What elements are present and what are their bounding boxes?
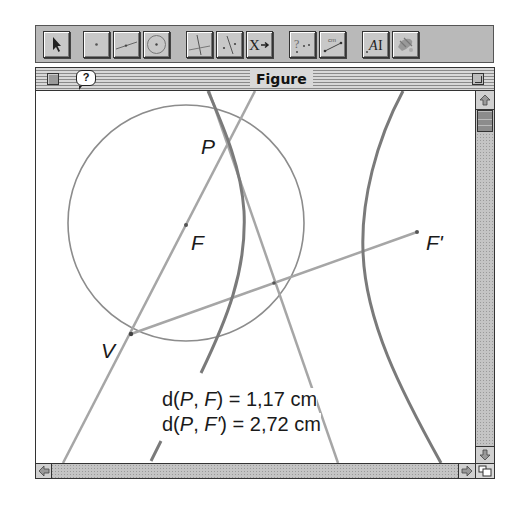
help-balloon-icon[interactable]: ? xyxy=(76,70,96,86)
svg-text:X: X xyxy=(249,37,260,53)
point-icon xyxy=(85,33,108,56)
measurement-pf-prime[interactable]: d(P, F') = 2,72 cm xyxy=(162,413,321,436)
vertical-scroll-thumb[interactable] xyxy=(477,110,493,132)
label-v: V xyxy=(101,339,115,363)
point-tool-button[interactable] xyxy=(83,31,110,58)
attributes-tool-button[interactable] xyxy=(392,31,419,58)
measure-tool-button[interactable]: cm xyxy=(319,31,346,58)
point-f-prime[interactable] xyxy=(415,230,419,234)
svg-text:A: A xyxy=(368,38,378,53)
reflection-icon xyxy=(218,33,241,56)
scroll-down-arrow-icon[interactable] xyxy=(476,446,494,463)
intersection-point[interactable] xyxy=(272,281,276,285)
symmetry-tool-button[interactable] xyxy=(216,31,243,58)
vertical-scrollbar[interactable] xyxy=(475,91,494,463)
window-title: Figure xyxy=(250,70,313,88)
measure-icon: cm xyxy=(321,33,344,56)
perpendicular-icon xyxy=(188,33,211,56)
figure-window: ? Figure P F F' V d xyxy=(35,67,495,479)
hyperbola-left-branch-lower[interactable] xyxy=(151,441,161,461)
scroll-up-arrow-icon[interactable] xyxy=(476,91,494,110)
property-check-tool-button[interactable]: ? xyxy=(289,31,316,58)
transform-icon: X xyxy=(248,33,271,56)
svg-text:?: ? xyxy=(294,37,299,51)
paint-icon xyxy=(394,33,417,56)
scroll-right-arrow-icon[interactable] xyxy=(458,464,475,478)
line-tool-button[interactable] xyxy=(113,31,140,58)
measurement-pf[interactable]: d(P, F) = 1,17 cm xyxy=(162,388,317,411)
arrow-pointer-icon xyxy=(45,33,68,56)
text-icon: AI xyxy=(364,33,387,56)
label-f-prime: F' xyxy=(426,231,443,255)
circle-icon xyxy=(145,33,168,56)
text-tool-button[interactable]: AI xyxy=(362,31,389,58)
question-points-icon: ? xyxy=(291,33,314,56)
transform-tool-button[interactable]: X xyxy=(246,31,273,58)
circle-tool-button[interactable] xyxy=(143,31,170,58)
hyperbola-right-branch[interactable] xyxy=(363,91,441,463)
scroll-left-arrow-icon[interactable] xyxy=(36,464,52,478)
point-f[interactable] xyxy=(184,223,188,227)
zoom-box-button[interactable] xyxy=(472,73,484,85)
svg-text:I: I xyxy=(378,38,383,53)
title-bar[interactable]: ? Figure xyxy=(36,68,494,91)
resize-icon xyxy=(476,464,494,478)
drawing-canvas[interactable]: P F F' V d(P, F) = 1,17 cm d(P, F') = 2,… xyxy=(36,91,475,463)
label-p: P xyxy=(201,135,215,159)
label-f: F xyxy=(191,231,204,255)
tool-palette: X ? cm AI xyxy=(35,25,494,63)
svg-text:cm: cm xyxy=(328,37,336,43)
line-icon xyxy=(115,33,138,56)
resize-grow-box[interactable] xyxy=(475,463,494,478)
close-box-button[interactable] xyxy=(47,73,59,85)
point-v[interactable] xyxy=(129,332,133,336)
perpendicular-tool-button[interactable] xyxy=(186,31,213,58)
pointer-tool-button[interactable] xyxy=(43,31,70,58)
horizontal-scrollbar[interactable] xyxy=(36,463,475,478)
